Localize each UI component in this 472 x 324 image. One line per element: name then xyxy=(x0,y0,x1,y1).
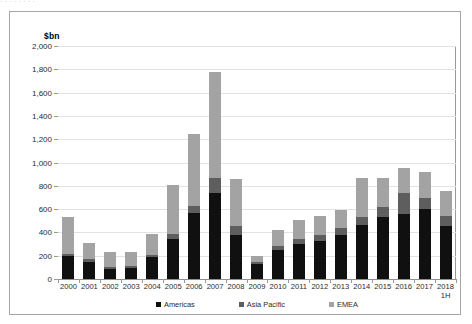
x-axis-tick-label: 2015 xyxy=(372,282,393,291)
y-axis-tick xyxy=(54,139,58,140)
x-axis-tick-label: 2018 1H xyxy=(435,282,456,300)
bar-2012[interactable] xyxy=(314,216,326,279)
bar-2007[interactable] xyxy=(209,72,221,279)
x-axis-tick-label: 2016 xyxy=(393,282,414,291)
x-axis-tick-label: 2001 xyxy=(79,282,100,291)
bar-2005[interactable] xyxy=(167,185,179,279)
bar-segment-americas xyxy=(125,268,137,279)
gridline xyxy=(58,279,456,280)
x-axis-tick-label: 2011 xyxy=(288,282,309,291)
bar-segment-emea xyxy=(146,234,158,255)
x-axis-tick-label: 2006 xyxy=(184,282,205,291)
bar-2010[interactable] xyxy=(272,230,284,279)
bar-segment-emea xyxy=(335,210,347,228)
bar-2014[interactable] xyxy=(356,178,368,279)
bar-segment-americas xyxy=(419,209,431,279)
bar-segment-asia-pacific xyxy=(209,178,221,193)
bar-segment-emea xyxy=(83,243,95,259)
x-axis-tick-label: 2004 xyxy=(142,282,163,291)
bar-segment-asia-pacific xyxy=(230,226,242,235)
bar-2015[interactable] xyxy=(377,178,389,279)
gridline xyxy=(58,69,456,70)
bar-segment-emea xyxy=(104,252,116,267)
x-axis-tick-label: 2005 xyxy=(163,282,184,291)
legend-swatch-icon xyxy=(239,302,244,307)
x-axis-tick-label: 2017 xyxy=(414,282,435,291)
y-axis-tick xyxy=(54,46,58,47)
gridline xyxy=(58,139,456,140)
bar-segment-americas xyxy=(440,226,452,279)
bar-segment-asia-pacific xyxy=(335,228,347,235)
y-axis-tick xyxy=(54,93,58,94)
x-axis-tick-label: 2012 xyxy=(309,282,330,291)
y-axis-tick-label: 0 xyxy=(48,275,52,284)
bar-segment-asia-pacific xyxy=(419,198,431,209)
bar-2002[interactable] xyxy=(104,252,116,279)
bar-2006[interactable] xyxy=(188,134,200,279)
x-axis-tick-label: 2002 xyxy=(100,282,121,291)
x-axis-tick-label: 2010 xyxy=(267,282,288,291)
bar-2017[interactable] xyxy=(419,172,431,279)
bar-2000[interactable] xyxy=(62,217,74,279)
bar-2003[interactable] xyxy=(125,252,137,279)
gridline xyxy=(58,163,456,164)
bar-2011[interactable] xyxy=(293,220,305,279)
legend-swatch-icon xyxy=(329,302,334,307)
bar-2018-1H[interactable] xyxy=(440,191,452,279)
gridline xyxy=(58,93,456,94)
bar-segment-emea xyxy=(62,217,74,254)
bar-2016[interactable] xyxy=(398,168,410,279)
bar-segment-asia-pacific xyxy=(398,193,410,214)
bar-2001[interactable] xyxy=(83,243,95,279)
y-axis-tick xyxy=(54,256,58,257)
bar-segment-asia-pacific xyxy=(377,207,389,217)
x-axis-tick-label: 2007 xyxy=(205,282,226,291)
y-axis-tick-label: 1,400 xyxy=(32,111,52,120)
bar-segment-americas xyxy=(398,214,410,279)
bar-segment-emea xyxy=(356,178,368,217)
bar-segment-americas xyxy=(83,262,95,279)
y-axis-tick-label: 200 xyxy=(39,251,52,260)
bar-segment-americas xyxy=(104,269,116,279)
gridline xyxy=(58,209,456,210)
legend-label: Asia Pacific xyxy=(247,300,285,309)
legend-label: Americas xyxy=(164,300,195,309)
bar-segment-americas xyxy=(293,244,305,279)
bar-segment-emea xyxy=(167,185,179,234)
bar-segment-emea xyxy=(440,191,452,216)
bar-segment-emea xyxy=(314,216,326,235)
bar-segment-americas xyxy=(335,235,347,279)
bar-segment-emea xyxy=(125,252,137,267)
chart-figure-frame: $bn 02004006008001,0001,2001,4001,6001,8… xyxy=(9,11,461,315)
legend-item-americas[interactable]: Americas xyxy=(156,300,195,309)
bar-segment-emea xyxy=(377,178,389,207)
bar-2013[interactable] xyxy=(335,210,347,279)
bar-2009[interactable] xyxy=(251,256,263,279)
y-axis-tick-label: 400 xyxy=(39,228,52,237)
bar-2008[interactable] xyxy=(230,179,242,279)
bar-segment-asia-pacific xyxy=(440,216,452,226)
bar-segment-emea xyxy=(188,134,200,206)
x-axis-tick xyxy=(456,279,457,283)
legend-item-asia-pacific[interactable]: Asia Pacific xyxy=(239,300,285,309)
y-axis-tick xyxy=(54,163,58,164)
gridline xyxy=(58,46,456,47)
x-axis-tick-label: 2013 xyxy=(330,282,351,291)
y-axis-tick-label: 800 xyxy=(39,181,52,190)
bar-segment-americas xyxy=(272,250,284,279)
y-axis-tick xyxy=(54,232,58,233)
bar-segment-emea xyxy=(230,179,242,226)
legend-swatch-icon xyxy=(156,302,161,307)
x-axis-tick-label: 2003 xyxy=(121,282,142,291)
legend-item-emea[interactable]: EMEA xyxy=(329,300,358,309)
bar-segment-americas xyxy=(188,213,200,279)
y-axis-tick-label: 1,200 xyxy=(32,135,52,144)
bar-segment-americas xyxy=(230,235,242,279)
chart-legend: AmericasAsia PacificEMEA xyxy=(58,300,456,309)
bar-segment-americas xyxy=(377,217,389,279)
y-axis-tick xyxy=(54,69,58,70)
bar-2004[interactable] xyxy=(146,234,158,279)
legend-label: EMEA xyxy=(337,300,358,309)
bar-segment-emea xyxy=(293,220,305,239)
bar-segment-emea xyxy=(209,72,221,178)
